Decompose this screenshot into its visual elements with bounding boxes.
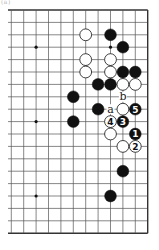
black-stone xyxy=(117,165,129,177)
black-stone-move-5: 5 xyxy=(129,103,141,115)
white-stone-move-4: 4 xyxy=(105,116,117,128)
black-stone xyxy=(129,66,141,78)
move-number: 3 xyxy=(120,117,126,127)
point-label-a: a xyxy=(107,103,114,116)
go-board: ba 54312 xyxy=(0,0,159,250)
white-stone xyxy=(105,66,117,78)
star-point xyxy=(109,46,112,49)
white-stone xyxy=(105,54,117,66)
white-stone xyxy=(129,79,141,91)
black-stone-move-3: 3 xyxy=(117,116,129,128)
black-stone xyxy=(105,190,117,202)
star-point xyxy=(35,46,38,49)
black-stone xyxy=(92,79,104,91)
black-stone xyxy=(117,66,129,78)
black-stone xyxy=(105,29,117,41)
black-stone xyxy=(67,91,79,103)
point-label-b: b xyxy=(119,90,126,103)
star-point xyxy=(35,120,38,123)
move-number: 1 xyxy=(132,129,138,139)
black-stone xyxy=(92,103,104,115)
white-stone xyxy=(105,128,117,140)
black-stone xyxy=(67,116,79,128)
move-number: 5 xyxy=(132,105,138,115)
white-stone xyxy=(80,66,92,78)
star-point xyxy=(35,194,38,197)
black-stone xyxy=(105,79,117,91)
move-number: 2 xyxy=(132,142,138,152)
move-number: 4 xyxy=(107,117,113,127)
stones: 54312 xyxy=(67,29,141,202)
white-stone xyxy=(117,103,129,115)
black-stone-move-1: 1 xyxy=(129,128,141,140)
white-stone-move-2: 2 xyxy=(129,141,141,153)
black-stone xyxy=(117,41,129,53)
white-stone xyxy=(80,29,92,41)
white-stone xyxy=(80,54,92,66)
white-stone xyxy=(117,141,129,153)
white-stone xyxy=(117,79,129,91)
